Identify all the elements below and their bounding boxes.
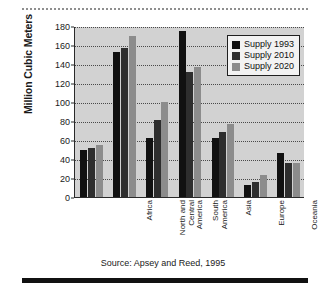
bar [129, 36, 136, 197]
bar-group [108, 27, 141, 197]
bar [80, 150, 87, 197]
source-note: Source: Apsey and Reed, 1995 [0, 258, 326, 268]
y-axis-tick-label: 60 [60, 137, 70, 146]
y-axis-tick-label: 180 [55, 23, 70, 32]
x-axis-category-label: Oceania [311, 200, 320, 252]
legend-item: Supply 2010 [232, 50, 294, 61]
bar [146, 138, 153, 197]
x-axis-category-label: South America [212, 200, 229, 252]
bar [194, 67, 201, 197]
bar [219, 132, 226, 197]
y-axis-tick-label: 80 [60, 118, 70, 127]
chart-legend: Supply 1993Supply 2010Supply 2020 [227, 35, 300, 76]
top-divider-rule [22, 8, 308, 10]
y-axis-title: Million Cubic Meters [22, 0, 38, 139]
y-axis-tick-label: 40 [60, 156, 70, 165]
bar-group [141, 27, 174, 197]
bottom-divider-bar [22, 278, 308, 283]
bar [227, 124, 234, 197]
bar-group [174, 27, 207, 197]
legend-item: Supply 1993 [232, 39, 294, 50]
bar [96, 145, 103, 197]
y-axis-tick-label: 100 [55, 99, 70, 108]
y-axis-tick-label: 0 [65, 194, 70, 203]
bar [252, 182, 259, 197]
bar [121, 48, 128, 197]
bar [212, 138, 219, 197]
legend-swatch-icon [232, 63, 240, 71]
bar [161, 102, 168, 197]
bar [113, 52, 120, 197]
bar [154, 120, 161, 197]
y-axis-tick-label: 160 [55, 42, 70, 51]
y-axis-ticks: 020406080100120140160180 [52, 27, 74, 198]
bar [277, 153, 284, 197]
y-axis-tick-label: 120 [55, 80, 70, 89]
y-axis-tick-label: 20 [60, 175, 70, 184]
bar [285, 163, 292, 197]
y-axis-tick-label: 140 [55, 61, 70, 70]
plot-area: Supply 1993Supply 2010Supply 2020 [74, 27, 304, 198]
x-axis-category-label: Asia [245, 200, 254, 252]
x-axis-category-label: Africa [146, 200, 155, 252]
bar [179, 31, 186, 197]
x-axis-category-label: North and Central America [179, 200, 205, 252]
bar [186, 72, 193, 197]
bar [260, 175, 267, 197]
bar [244, 185, 251, 197]
bar-chart: 020406080100120140160180 Supply 1993Supp… [52, 27, 304, 198]
bar [88, 148, 95, 197]
legend-item-label: Supply 1993 [244, 40, 294, 49]
legend-item: Supply 2020 [232, 61, 294, 72]
x-axis-category-label: Europe [278, 200, 287, 252]
legend-swatch-icon [232, 41, 240, 49]
legend-swatch-icon [232, 52, 240, 60]
x-axis-category-labels: AfricaNorth and Central AmericaSouth Ame… [74, 200, 304, 252]
bar-group [75, 27, 108, 197]
legend-item-label: Supply 2010 [244, 51, 294, 60]
bar [293, 163, 300, 197]
legend-item-label: Supply 2020 [244, 62, 294, 71]
